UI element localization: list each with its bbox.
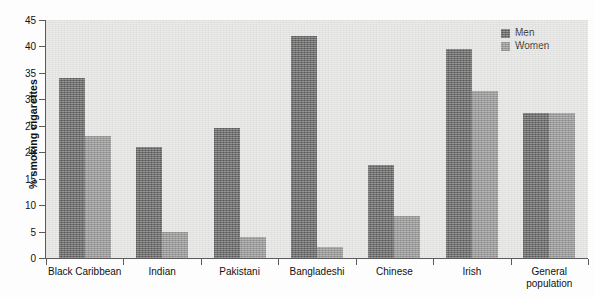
x-axis-category-label: Chinese [376,266,413,278]
legend-item-women[interactable]: Women [501,41,549,51]
bar-men [446,49,472,258]
bar-men [214,128,240,258]
y-axis-tick-label: 40 [6,41,36,52]
legend-label: Women [515,41,549,51]
x-axis-category-label: Indian [149,266,176,278]
y-axis-tick-label: 45 [6,15,36,26]
y-axis-tick-label: 5 [6,226,36,237]
bar-women [85,136,111,258]
y-axis-tick-label: 35 [6,67,36,78]
y-axis-tick-label: 0 [6,253,36,264]
bar-women [549,113,575,258]
y-axis-tick-labels: 051015202530354045 [0,0,36,297]
x-axis-tick-mark [46,259,47,265]
bar-women [317,247,343,258]
y-axis-tick-label: 30 [6,94,36,105]
x-axis-tick-mark [433,259,434,265]
legend-swatch-women-icon [501,42,510,51]
x-axis-category-label: General population [526,266,572,290]
bar-men [291,36,317,258]
legend-swatch-men-icon [501,29,510,38]
bar-men [523,113,549,258]
x-axis-line [45,258,588,259]
y-axis-tick-label: 15 [6,173,36,184]
legend-label: Men [515,28,534,38]
y-axis-tick-label: 10 [6,200,36,211]
x-axis-category-label: Black Caribbean [48,266,121,278]
bar-women [394,216,420,258]
x-axis-tick-mark [356,259,357,265]
bar-men [59,78,85,258]
bar-chart-figure: % smoking cigarettes 051015202530354045 … [0,0,595,297]
bar-men [368,165,394,258]
y-axis-line [45,20,46,259]
x-axis-tick-mark [588,259,589,265]
bar-women [472,91,498,258]
x-axis-category-label: Bangladeshi [289,266,344,278]
y-axis-tick-label: 20 [6,147,36,158]
x-axis-category-label: Irish [462,266,481,278]
x-axis-tick-mark [278,259,279,265]
plot-area: MenWomen [46,20,588,258]
x-axis-tick-mark [201,259,202,265]
bar-men [136,147,162,258]
bar-women [162,232,188,258]
x-axis-category-label: Pakistani [219,266,260,278]
x-axis-tick-mark [123,259,124,265]
y-axis-tick-label: 25 [6,120,36,131]
bar-women [240,237,266,258]
chart-legend: MenWomen [501,28,549,51]
legend-item-men[interactable]: Men [501,28,549,38]
x-axis-tick-mark [511,259,512,265]
